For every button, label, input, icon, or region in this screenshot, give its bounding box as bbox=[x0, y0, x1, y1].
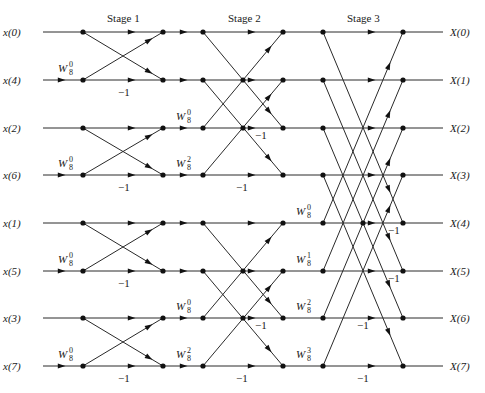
node-dot bbox=[240, 268, 245, 273]
output-label: X(5) bbox=[449, 265, 470, 278]
input-label: x(2) bbox=[2, 122, 21, 135]
twiddle-factor: W28 bbox=[176, 155, 191, 172]
twiddle-base: W bbox=[176, 157, 186, 169]
arrow-icon bbox=[248, 29, 256, 34]
arrow-icon bbox=[128, 125, 136, 130]
minus-one-label: −1 bbox=[255, 129, 267, 141]
arrow-icon bbox=[128, 29, 136, 34]
node-dot bbox=[320, 315, 325, 320]
arrow-icon bbox=[180, 363, 188, 368]
arrow-icon bbox=[385, 185, 390, 193]
node-dot bbox=[160, 77, 165, 82]
twiddle-base: W bbox=[176, 348, 186, 360]
twiddle-factor: W18 bbox=[296, 251, 311, 268]
node-dot bbox=[360, 220, 365, 225]
arrow-icon bbox=[368, 77, 376, 82]
twiddle-factor: W08 bbox=[176, 298, 191, 315]
arrow-icon bbox=[248, 363, 256, 368]
node-dot bbox=[240, 125, 245, 130]
arrow-icon bbox=[248, 77, 256, 82]
twiddle-factor: W08 bbox=[58, 155, 73, 172]
twiddle-subscript: 8 bbox=[69, 68, 73, 77]
node-dot bbox=[320, 363, 325, 368]
node-dot bbox=[400, 29, 405, 34]
twiddle-subscript: 8 bbox=[69, 354, 73, 363]
arrow-icon bbox=[368, 315, 376, 320]
twiddle-factor: W38 bbox=[296, 346, 311, 363]
input-label: x(0) bbox=[2, 26, 21, 39]
twiddle-base: W bbox=[58, 62, 68, 74]
node-dot bbox=[280, 363, 285, 368]
node-dot bbox=[280, 172, 285, 177]
node-dot bbox=[200, 363, 205, 368]
twiddle-base: W bbox=[296, 253, 306, 265]
output-label: X(7) bbox=[449, 360, 470, 373]
twiddle-base: W bbox=[58, 348, 68, 360]
node-dot bbox=[320, 77, 325, 82]
minus-one-label: −1 bbox=[118, 181, 130, 193]
twiddle-subscript: 8 bbox=[307, 259, 311, 268]
arrow-icon bbox=[58, 268, 66, 273]
node-dot bbox=[320, 220, 325, 225]
twiddle-factor: W08 bbox=[58, 251, 73, 268]
arrow-icon bbox=[180, 77, 188, 82]
node-dot bbox=[200, 268, 205, 273]
output-label: X(2) bbox=[449, 122, 470, 135]
twiddle-subscript: 8 bbox=[69, 163, 73, 172]
stage-label: Stage 3 bbox=[347, 12, 380, 24]
arrow-icon bbox=[145, 324, 153, 330]
arrow-icon bbox=[180, 125, 188, 130]
node-dot bbox=[80, 29, 85, 34]
node-dot bbox=[160, 268, 165, 273]
arrow-icon bbox=[368, 220, 376, 225]
node-dot bbox=[80, 125, 85, 130]
arrow-icon bbox=[58, 172, 66, 177]
node-dot bbox=[160, 220, 165, 225]
node-dot bbox=[240, 315, 245, 320]
twiddle-factor: W08 bbox=[58, 60, 73, 77]
stage-labels: Stage 1Stage 2Stage 3 bbox=[107, 12, 380, 24]
minus-one-label: −1 bbox=[118, 86, 130, 98]
node-dot bbox=[240, 77, 245, 82]
twiddle-base: W bbox=[58, 157, 68, 169]
node-dot bbox=[400, 315, 405, 320]
twiddle-subscript: 8 bbox=[69, 259, 73, 268]
stage-label: Stage 1 bbox=[107, 12, 140, 24]
twiddle-factor: W08 bbox=[58, 346, 73, 363]
minus-one-label: −1 bbox=[388, 272, 400, 284]
arrow-icon bbox=[145, 259, 153, 265]
arrow-icon bbox=[180, 315, 188, 320]
node-dot bbox=[200, 220, 205, 225]
node-dot bbox=[80, 172, 85, 177]
twiddle-subscript: 8 bbox=[187, 116, 191, 125]
node-dot bbox=[80, 268, 85, 273]
arrow-icon bbox=[128, 315, 136, 320]
minus-one-label: −1 bbox=[236, 181, 248, 193]
arrow-icon bbox=[385, 158, 390, 166]
minus-one-label: −1 bbox=[236, 372, 248, 384]
twiddle-base: W bbox=[58, 253, 68, 265]
twiddle-subscript: 8 bbox=[307, 211, 311, 220]
node-dot bbox=[160, 125, 165, 130]
input-label: x(4) bbox=[2, 74, 21, 87]
arrow-icon bbox=[180, 29, 188, 34]
arrow-icon bbox=[128, 268, 136, 273]
twiddle-factor: W28 bbox=[296, 298, 311, 315]
arrow-icon bbox=[385, 328, 390, 336]
twiddle-factor: W28 bbox=[176, 346, 191, 363]
node-dot bbox=[400, 125, 405, 130]
arrow-icon bbox=[385, 110, 390, 118]
node-dot bbox=[400, 77, 405, 82]
output-label: X(1) bbox=[449, 74, 470, 87]
output-label: X(6) bbox=[449, 312, 470, 325]
minus-one-label: −1 bbox=[118, 277, 130, 289]
node-dot bbox=[320, 268, 325, 273]
output-label: X(4) bbox=[449, 217, 470, 230]
node-dot bbox=[80, 220, 85, 225]
minus-one-label: −1 bbox=[357, 319, 369, 331]
arrow-icon bbox=[128, 220, 136, 225]
node-dot bbox=[280, 77, 285, 82]
input-label: x(7) bbox=[2, 360, 21, 373]
twiddle-subscript: 8 bbox=[187, 163, 191, 172]
arrow-icon bbox=[128, 172, 136, 177]
